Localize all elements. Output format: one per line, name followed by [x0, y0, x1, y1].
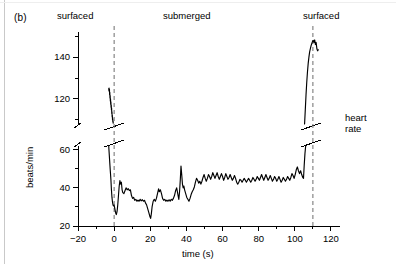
axes-group	[73, 32, 340, 231]
figure-panel: (b) surfaced submerged surfaced heart ra…	[0, 0, 396, 264]
trace-upper-left	[109, 88, 114, 123]
data-series-group	[109, 40, 319, 218]
chart-canvas	[0, 0, 396, 264]
event-markers-group	[114, 26, 313, 226]
trace-lower-main	[109, 146, 306, 218]
trace-break-mark-3	[301, 123, 321, 130]
trace-break-mark-2	[301, 140, 321, 147]
trace-upper-right	[305, 40, 319, 124]
